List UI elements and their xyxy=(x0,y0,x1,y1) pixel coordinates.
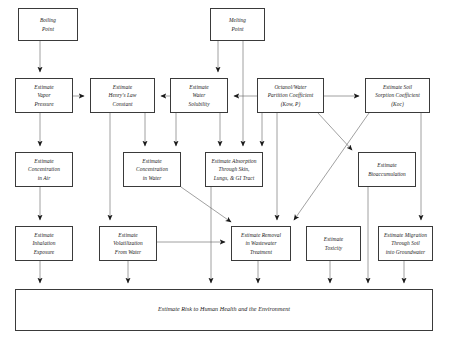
node-soil-sorption[interactable]: Estimate SoilSorption Coefficient(Koc) xyxy=(365,78,430,113)
node-concentration-air[interactable]: EstimateConcentrationin Air xyxy=(15,152,73,187)
flowchart-canvas: BoilingPoint MeltingPoint EstimateVaporP… xyxy=(0,0,449,346)
node-label: Estimate Removalin WastewaterTreatment xyxy=(233,231,289,256)
node-label: MeltingPoint xyxy=(212,16,263,33)
node-volatilization[interactable]: EstimateVolatilizationFrom Water xyxy=(99,226,157,261)
node-inhalation-exposure[interactable]: EstimateInhalationExposure xyxy=(15,226,73,261)
node-wastewater-removal[interactable]: Estimate Removalin WastewaterTreatment xyxy=(231,226,291,261)
node-label: Estimate MigrationThrough Soilinto Groun… xyxy=(380,231,431,256)
node-label: EstimateVaporPressure xyxy=(17,83,71,108)
node-melting-point[interactable]: MeltingPoint xyxy=(210,8,265,41)
node-henrys-law[interactable]: EstimateHenry's LawConstant xyxy=(90,78,155,113)
node-label: Octanol/WaterPartition Coefficient(Kow, … xyxy=(259,83,322,108)
node-label: EstimateConcentrationin Water xyxy=(125,157,179,182)
node-risk-summary[interactable]: Estimate Risk to Human Health and the En… xyxy=(15,289,433,331)
node-water-solubility[interactable]: EstimateWaterSolubility xyxy=(170,78,228,113)
node-octanol-water[interactable]: Octanol/WaterPartition Coefficient(Kow, … xyxy=(257,78,324,113)
node-label: EstimateVolatilizationFrom Water xyxy=(101,231,155,256)
node-boiling-point[interactable]: BoilingPoint xyxy=(18,8,78,41)
node-bioaccumulation[interactable]: EstimateBioaccumulation xyxy=(358,152,416,187)
node-concentration-water[interactable]: EstimateConcentrationin Water xyxy=(123,152,181,187)
node-vapor-pressure[interactable]: EstimateVaporPressure xyxy=(15,78,73,113)
node-label: EstimateToxicity xyxy=(308,235,359,252)
node-label: EstimateInhalationExposure xyxy=(17,231,71,256)
node-label: BoilingPoint xyxy=(20,16,76,33)
node-label: EstimateWaterSolubility xyxy=(172,83,226,108)
node-label: EstimateHenry's LawConstant xyxy=(92,83,153,108)
node-label: Estimate Risk to Human Health and the En… xyxy=(17,305,431,314)
node-label: EstimateConcentrationin Air xyxy=(17,157,71,182)
node-label: Estimate AbsorptionThrough Skin,Lungs, &… xyxy=(207,157,261,182)
node-absorption[interactable]: Estimate AbsorptionThrough Skin,Lungs, &… xyxy=(205,152,263,187)
node-migration[interactable]: Estimate MigrationThrough Soilinto Groun… xyxy=(378,226,433,261)
node-label: Estimate SoilSorption Coefficient(Koc) xyxy=(367,83,428,108)
node-toxicity[interactable]: EstimateToxicity xyxy=(306,226,361,261)
node-label: EstimateBioaccumulation xyxy=(360,161,414,178)
